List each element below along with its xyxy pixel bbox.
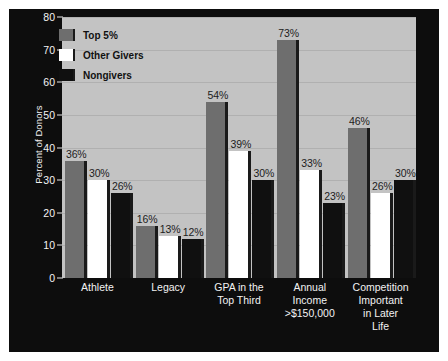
bar-value-label: 30% <box>395 167 416 179</box>
bar <box>136 226 155 278</box>
x-axis: AthleteLegacyGPA in the Top ThirdAnnual … <box>62 281 416 347</box>
legend-item-label: Nongivers <box>83 70 132 81</box>
bar-chart-figure: Percent of Donors 80706050403020100 36%3… <box>9 9 439 352</box>
bar-value-label: 36% <box>66 148 87 160</box>
y-axis-tick-label: 80 <box>43 11 55 23</box>
x-axis-category-label: Athlete <box>62 281 133 294</box>
bar <box>300 170 319 278</box>
bar-shadow <box>84 161 87 278</box>
legend-swatch-wrapper <box>59 49 75 61</box>
y-axis: 80706050403020100 <box>9 9 63 352</box>
bar-shadow <box>178 236 181 278</box>
bar-group: 73%33%23% <box>274 17 345 278</box>
bar-value-label: 13% <box>160 223 181 235</box>
bar-shadow <box>413 180 416 278</box>
y-axis-tick-label: 40 <box>43 142 55 154</box>
bar-shadow <box>319 170 322 278</box>
bar <box>348 128 367 278</box>
y-axis-tick-label: 10 <box>43 239 55 251</box>
bar <box>111 193 130 278</box>
legend-item: Other Givers <box>59 47 171 63</box>
x-axis-category-label: Legacy <box>133 281 204 294</box>
bar-shadow <box>225 102 228 278</box>
bar-value-label: 23% <box>324 190 345 202</box>
legend-color-swatch <box>59 69 73 81</box>
y-axis-tick-label: 20 <box>43 207 55 219</box>
chart-legend: Top 5%Other GiversNongivers <box>59 27 171 87</box>
bar-shadow <box>296 40 299 278</box>
bar-value-label: 33% <box>301 157 322 169</box>
bar <box>323 203 342 278</box>
bar <box>88 180 107 278</box>
bar-value-label: 12% <box>183 226 204 238</box>
legend-swatch-shadow <box>73 49 75 61</box>
bar-value-label: 46% <box>349 115 370 127</box>
x-axis-category-label: Annual Income >$150,000 <box>274 281 345 320</box>
y-axis-tick-label: 50 <box>43 109 55 121</box>
bar <box>277 40 296 278</box>
y-axis-tick-label: 70 <box>43 44 55 56</box>
legend-swatch-shadow <box>73 29 75 41</box>
legend-item: Top 5% <box>59 27 171 43</box>
bar <box>252 180 271 278</box>
bar <box>182 239 201 278</box>
bar-shadow <box>107 180 110 278</box>
bar <box>371 193 390 278</box>
bar-value-label: 39% <box>230 138 251 150</box>
legend-swatch-wrapper <box>59 29 75 41</box>
legend-item-label: Other Givers <box>83 50 144 61</box>
bar-shadow <box>155 226 158 278</box>
bar-value-label: 26% <box>112 180 133 192</box>
bar-value-label: 73% <box>278 27 299 39</box>
bar-value-label: 16% <box>137 213 158 225</box>
bar-shadow <box>367 128 370 278</box>
legend-item: Nongivers <box>59 67 171 83</box>
bar-shadow <box>248 151 251 278</box>
bar-value-label: 26% <box>372 180 393 192</box>
bar-value-label: 30% <box>253 167 274 179</box>
legend-item-label: Top 5% <box>83 30 118 41</box>
legend-color-swatch <box>59 29 73 41</box>
legend-swatch-shadow <box>73 69 75 81</box>
bar-group: 54%39%30% <box>204 17 275 278</box>
bar <box>394 180 413 278</box>
bar <box>229 151 248 278</box>
x-axis-category-label: GPA in the Top Third <box>204 281 275 307</box>
y-axis-tick-label: 0 <box>49 272 55 284</box>
y-axis-tick-label: 30 <box>43 174 55 186</box>
x-axis-category-label: Competition Important in Later Life <box>345 281 416 333</box>
bar <box>65 161 84 278</box>
bar <box>206 102 225 278</box>
bar-value-label: 30% <box>89 167 110 179</box>
legend-swatch-wrapper <box>59 69 75 81</box>
bar-group: 46%26%30% <box>345 17 416 278</box>
y-axis-tick-label: 60 <box>43 76 55 88</box>
bar-value-label: 54% <box>207 89 228 101</box>
bar <box>159 236 178 278</box>
bar-shadow <box>390 193 393 278</box>
legend-color-swatch <box>59 49 73 61</box>
